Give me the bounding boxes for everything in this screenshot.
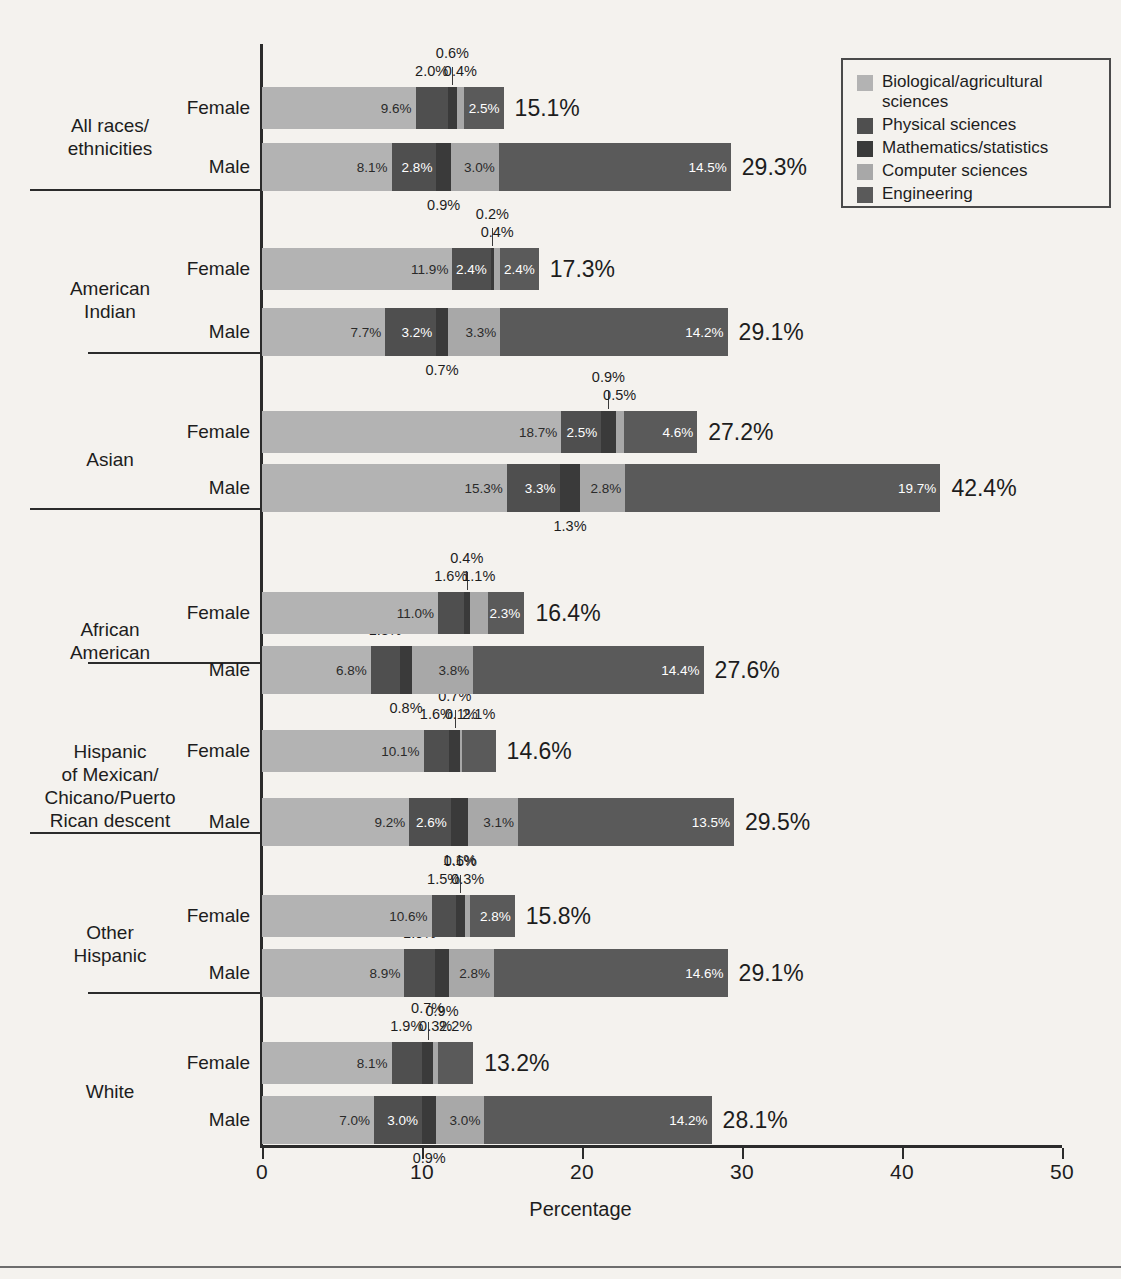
legend-label: Computer sciences bbox=[882, 161, 1028, 181]
segment-value-label: 3.8% bbox=[438, 663, 473, 678]
bar-segment: 3.2% bbox=[385, 308, 436, 356]
segment-value-label: 8.1% bbox=[357, 1056, 392, 1071]
bar-segment bbox=[462, 730, 496, 772]
legend-swatch bbox=[857, 164, 873, 180]
bar-segment: 14.4% bbox=[473, 646, 703, 694]
bar-segment: 7.7% bbox=[262, 308, 385, 356]
bar-segment bbox=[371, 646, 400, 694]
legend-item: Physical sciences bbox=[857, 115, 1099, 135]
bar-segment: 11.0% bbox=[262, 592, 438, 634]
segment-value-label: 14.2% bbox=[685, 325, 727, 340]
bar-3-male: 6.8%3.8%14.4%27.6% bbox=[262, 646, 704, 694]
segment-callout-label: 2.1% bbox=[462, 706, 495, 722]
segment-value-label: 3.3% bbox=[525, 481, 560, 496]
x-axis-tick bbox=[262, 1148, 264, 1159]
legend-item: Engineering bbox=[857, 184, 1099, 204]
row-label-female: Female bbox=[145, 740, 250, 762]
group-label-1: American Indian bbox=[10, 277, 210, 323]
bar-segment bbox=[470, 592, 488, 634]
bar-total-label: 14.6% bbox=[507, 738, 572, 765]
figure-page: 01020304050 All races/ ethnicitiesFemale… bbox=[0, 0, 1121, 1279]
bar-segment: 8.9% bbox=[262, 949, 404, 997]
bar-segment: 6.8% bbox=[262, 646, 371, 694]
row-label-female: Female bbox=[145, 905, 250, 927]
x-axis-tick bbox=[902, 1148, 904, 1159]
segment-value-label: 2.8% bbox=[402, 160, 437, 175]
bar-segment bbox=[422, 1042, 433, 1084]
bar-segment: 8.1% bbox=[262, 143, 392, 191]
bar-segment: 10.1% bbox=[262, 730, 424, 772]
bar-segment: 14.5% bbox=[499, 143, 731, 191]
segment-value-label: 14.4% bbox=[661, 663, 703, 678]
bar-segment: 19.7% bbox=[625, 464, 940, 512]
bar-total-label: 15.8% bbox=[526, 903, 591, 930]
bar-1-male: 7.7%3.2%3.3%14.2%29.1% bbox=[262, 308, 728, 356]
bar-segment: 8.1% bbox=[262, 1042, 392, 1084]
bar-4-female: 10.1%14.6% bbox=[262, 730, 496, 772]
x-axis-title-text: Percentage bbox=[529, 1198, 631, 1220]
segment-callout-label: 1.1% bbox=[462, 568, 495, 584]
bottom-rule bbox=[0, 1266, 1121, 1268]
bar-6-male: 7.0%3.0%3.0%14.2%28.1% bbox=[262, 1096, 712, 1144]
bar-segment: 2.5% bbox=[561, 411, 601, 453]
segment-callout-label: 0.9% bbox=[413, 1150, 446, 1166]
segment-value-label: 9.6% bbox=[381, 101, 416, 116]
row-label-male: Male bbox=[145, 659, 250, 681]
segment-callout-label: 2.2% bbox=[439, 1018, 472, 1034]
bar-segment bbox=[436, 143, 450, 191]
bar-segment bbox=[436, 308, 447, 356]
segment-callout-label: 0.7% bbox=[425, 362, 458, 378]
row-label-male: Male bbox=[145, 962, 250, 984]
legend-item: Computer sciences bbox=[857, 161, 1099, 181]
group-label-0: All races/ ethnicities bbox=[10, 114, 210, 160]
bar-segment bbox=[400, 646, 413, 694]
x-axis-tick bbox=[1062, 1148, 1064, 1159]
bar-total-label: 13.2% bbox=[484, 1050, 549, 1077]
bar-segment: 4.6% bbox=[624, 411, 698, 453]
bar-segment: 13.5% bbox=[518, 798, 734, 846]
legend-label: Mathematics/statistics bbox=[882, 138, 1048, 158]
bar-segment: 3.0% bbox=[374, 1096, 422, 1144]
legend-swatch bbox=[857, 187, 873, 203]
segment-callout-label: 0.7% bbox=[411, 1000, 444, 1016]
segment-callout-label: 0.3% bbox=[451, 871, 484, 887]
x-axis-tick-label: 40 bbox=[890, 1160, 914, 1184]
segment-callout-label: 1.3% bbox=[553, 518, 586, 534]
segment-value-label: 2.8% bbox=[590, 481, 625, 496]
bar-2-female: 18.7%2.5%4.6%27.2% bbox=[262, 411, 697, 453]
bar-segment: 14.6% bbox=[494, 949, 728, 997]
group-separator bbox=[88, 992, 268, 994]
bar-total-label: 29.3% bbox=[742, 154, 807, 181]
bar-1-female: 11.9%2.4%2.4%17.3% bbox=[262, 248, 539, 290]
row-label-female: Female bbox=[145, 602, 250, 624]
legend-label: Biological/agricultural sciences bbox=[882, 72, 1099, 112]
legend-swatch bbox=[857, 118, 873, 134]
segment-value-label: 7.7% bbox=[350, 325, 385, 340]
bar-segment: 15.3% bbox=[262, 464, 507, 512]
bar-total-label: 29.1% bbox=[739, 960, 804, 987]
bar-5-male: 8.9%2.8%14.6%29.1% bbox=[262, 949, 728, 997]
row-label-male: Male bbox=[145, 1109, 250, 1131]
x-axis-tick-label: 20 bbox=[570, 1160, 594, 1184]
bar-segment bbox=[424, 730, 450, 772]
segment-value-label: 4.6% bbox=[662, 425, 697, 440]
segment-callout-label: 0.4% bbox=[481, 224, 514, 240]
segment-value-label: 2.4% bbox=[456, 262, 491, 277]
x-axis-tick bbox=[582, 1148, 584, 1159]
bar-segment: 2.8% bbox=[392, 143, 437, 191]
segment-value-label: 3.0% bbox=[387, 1113, 422, 1128]
row-label-female: Female bbox=[145, 421, 250, 443]
legend-label: Engineering bbox=[882, 184, 973, 204]
segment-value-label: 9.2% bbox=[374, 815, 409, 830]
segment-callout-label: 0.6% bbox=[436, 45, 469, 61]
segment-value-label: 3.3% bbox=[466, 325, 501, 340]
segment-value-label: 18.7% bbox=[519, 425, 561, 440]
x-axis-line bbox=[260, 1145, 1062, 1148]
segment-value-label: 11.9% bbox=[411, 262, 452, 277]
row-label-male: Male bbox=[145, 477, 250, 499]
row-label-male: Male bbox=[145, 156, 250, 178]
bar-segment bbox=[616, 411, 624, 453]
bar-segment bbox=[392, 1042, 422, 1084]
bar-total-label: 28.1% bbox=[723, 1107, 788, 1134]
legend-swatch bbox=[857, 75, 873, 91]
